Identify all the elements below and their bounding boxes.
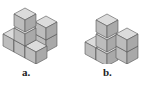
figure-label-b: b. — [103, 66, 112, 78]
cube-stack-b — [0, 0, 144, 64]
figure-label-a: a. — [22, 66, 30, 78]
